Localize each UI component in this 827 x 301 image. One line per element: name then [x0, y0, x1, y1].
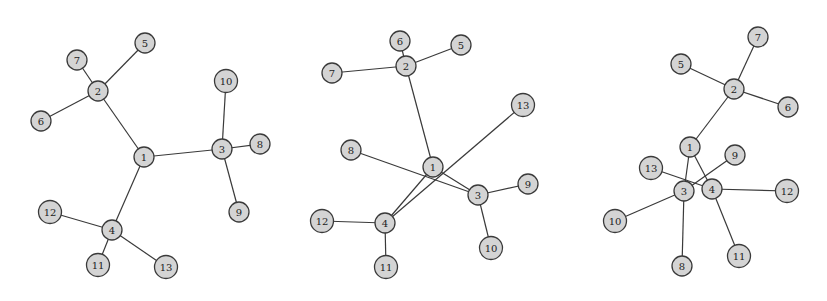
- graph-3: 12345678910111213: [604, 27, 799, 276]
- node-label: 2: [731, 84, 737, 95]
- node-label: 5: [458, 40, 464, 51]
- node-label: 3: [219, 144, 225, 155]
- node-3: 3: [674, 181, 694, 201]
- node-5: 5: [671, 54, 691, 74]
- node-label: 6: [785, 102, 791, 113]
- node-12: 12: [776, 180, 799, 203]
- node-1: 1: [423, 157, 443, 177]
- node-label: 1: [430, 162, 436, 173]
- node-9: 9: [229, 202, 249, 222]
- graph-2: 12345678910111213: [311, 31, 539, 279]
- edge-2-7: [332, 66, 406, 73]
- node-label: 9: [525, 179, 531, 190]
- node-label: 11: [733, 251, 746, 262]
- node-label: 6: [397, 36, 403, 47]
- node-label: 2: [95, 86, 101, 97]
- edge-1-4: [112, 157, 144, 230]
- node-label: 10: [220, 76, 233, 87]
- node-10: 10: [215, 70, 238, 93]
- node-9: 9: [725, 145, 745, 165]
- node-label: 4: [109, 225, 115, 236]
- node-label: 10: [609, 216, 622, 227]
- node-13: 13: [640, 157, 663, 180]
- node-8: 8: [672, 256, 692, 276]
- graph-1: 12345678910111213: [31, 33, 270, 279]
- node-label: 8: [257, 139, 263, 150]
- node-11: 11: [87, 254, 110, 277]
- node-label: 2: [403, 61, 409, 72]
- node-2: 2: [396, 56, 416, 76]
- node-label: 10: [485, 243, 498, 254]
- node-7: 7: [322, 63, 342, 83]
- node-label: 8: [348, 145, 354, 156]
- node-10: 10: [480, 237, 503, 260]
- node-label: 3: [681, 186, 687, 197]
- node-label: 8: [679, 261, 685, 272]
- edge-1-4: [385, 167, 433, 223]
- node-label: 11: [380, 262, 393, 273]
- node-6: 6: [390, 31, 410, 51]
- node-label: 1: [141, 152, 147, 163]
- node-11: 11: [375, 256, 398, 279]
- node-4: 4: [702, 179, 722, 199]
- node-1: 1: [680, 137, 700, 157]
- node-9: 9: [518, 174, 538, 194]
- node-2: 2: [88, 81, 108, 101]
- node-4: 4: [375, 213, 395, 233]
- node-label: 7: [74, 55, 80, 66]
- node-7: 7: [748, 27, 768, 47]
- node-label: 9: [236, 207, 242, 218]
- node-label: 7: [755, 32, 761, 43]
- node-label: 12: [316, 216, 329, 227]
- edge-1-3: [144, 149, 222, 157]
- edge-4-13: [385, 105, 523, 223]
- node-12: 12: [311, 210, 334, 233]
- node-1: 1: [134, 147, 154, 167]
- edge-3-8: [682, 191, 684, 266]
- edge-1-2: [406, 66, 433, 167]
- node-label: 1: [687, 142, 693, 153]
- node-label: 13: [517, 100, 530, 111]
- node-label: 13: [645, 163, 658, 174]
- node-label: 5: [142, 38, 148, 49]
- node-8: 8: [250, 134, 270, 154]
- node-2: 2: [724, 79, 744, 99]
- node-3: 3: [212, 139, 232, 159]
- edge-1-2: [690, 89, 734, 147]
- node-label: 4: [709, 184, 715, 195]
- node-7: 7: [67, 50, 87, 70]
- node-label: 6: [38, 116, 44, 127]
- node-label: 7: [329, 68, 335, 79]
- node-label: 13: [160, 262, 173, 273]
- node-label: 11: [92, 260, 105, 271]
- node-5: 5: [135, 33, 155, 53]
- node-12: 12: [39, 201, 62, 224]
- edge-1-2: [98, 91, 144, 157]
- node-label: 12: [44, 207, 57, 218]
- node-13: 13: [155, 256, 178, 279]
- node-11: 11: [728, 245, 751, 268]
- node-4: 4: [102, 220, 122, 240]
- node-13: 13: [512, 94, 535, 117]
- node-label: 5: [678, 59, 684, 70]
- node-3: 3: [468, 185, 488, 205]
- node-6: 6: [31, 111, 51, 131]
- node-label: 4: [382, 218, 388, 229]
- graph-layouts-figure: 12345678910111213 12345678910111213 1234…: [0, 0, 827, 301]
- node-label: 9: [732, 150, 738, 161]
- node-5: 5: [451, 35, 471, 55]
- node-10: 10: [604, 210, 627, 233]
- node-label: 12: [781, 186, 794, 197]
- node-8: 8: [341, 140, 361, 160]
- node-label: 3: [475, 190, 481, 201]
- node-6: 6: [778, 97, 798, 117]
